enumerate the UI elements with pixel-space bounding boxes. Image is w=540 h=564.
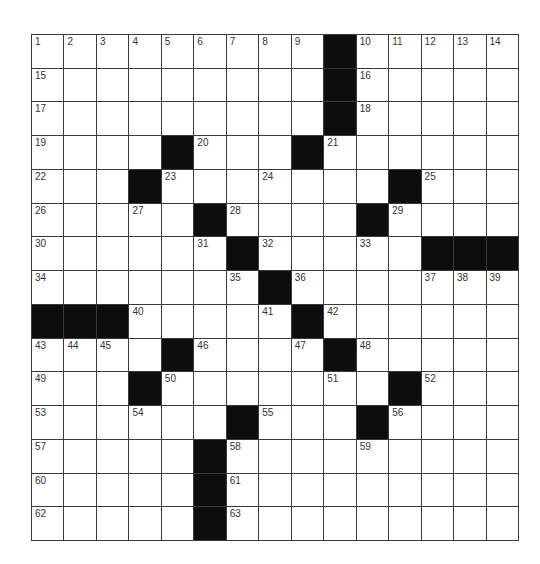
grid-cell[interactable] [64,474,96,508]
grid-cell[interactable] [97,474,129,508]
grid-cell[interactable] [389,474,421,508]
grid-cell[interactable]: 53 [32,406,64,440]
grid-cell[interactable] [389,305,421,339]
grid-cell[interactable]: 5 [162,35,194,69]
grid-cell[interactable] [454,136,486,170]
grid-cell[interactable]: 37 [422,271,454,305]
grid-cell[interactable]: 9 [292,35,324,69]
grid-cell[interactable] [292,474,324,508]
grid-cell[interactable] [422,69,454,103]
grid-cell[interactable] [292,102,324,136]
grid-cell[interactable] [422,474,454,508]
grid-cell[interactable] [97,69,129,103]
grid-cell[interactable] [389,237,421,271]
grid-cell[interactable] [422,406,454,440]
grid-cell[interactable] [487,102,519,136]
grid-cell[interactable]: 48 [357,339,389,373]
grid-cell[interactable]: 30 [32,237,64,271]
grid-cell[interactable] [454,474,486,508]
grid-cell[interactable]: 22 [32,170,64,204]
grid-cell[interactable] [97,204,129,238]
grid-cell[interactable] [162,237,194,271]
grid-cell[interactable] [324,406,356,440]
grid-cell[interactable] [227,170,259,204]
grid-cell[interactable]: 59 [357,440,389,474]
grid-cell[interactable] [97,372,129,406]
grid-cell[interactable]: 38 [454,271,486,305]
grid-cell[interactable]: 46 [194,339,226,373]
grid-cell[interactable] [97,136,129,170]
grid-cell[interactable]: 61 [227,474,259,508]
grid-cell[interactable] [64,237,96,271]
grid-cell[interactable]: 28 [227,204,259,238]
grid-cell[interactable] [162,69,194,103]
grid-cell[interactable] [259,372,291,406]
grid-cell[interactable] [454,170,486,204]
grid-cell[interactable] [422,136,454,170]
grid-cell[interactable] [162,204,194,238]
grid-cell[interactable] [487,339,519,373]
grid-cell[interactable] [324,474,356,508]
grid-cell[interactable] [324,271,356,305]
grid-cell[interactable] [259,474,291,508]
grid-cell[interactable] [487,170,519,204]
grid-cell[interactable]: 10 [357,35,389,69]
grid-cell[interactable] [324,237,356,271]
grid-cell[interactable] [422,204,454,238]
grid-cell[interactable]: 41 [259,305,291,339]
grid-cell[interactable]: 51 [324,372,356,406]
grid-cell[interactable] [357,507,389,541]
grid-cell[interactable] [454,440,486,474]
grid-cell[interactable] [357,305,389,339]
grid-cell[interactable] [97,102,129,136]
grid-cell[interactable] [97,271,129,305]
grid-cell[interactable] [324,507,356,541]
grid-cell[interactable] [454,507,486,541]
grid-cell[interactable]: 34 [32,271,64,305]
grid-cell[interactable]: 24 [259,170,291,204]
grid-cell[interactable]: 23 [162,170,194,204]
grid-cell[interactable] [357,136,389,170]
grid-cell[interactable] [227,372,259,406]
grid-cell[interactable]: 1 [32,35,64,69]
grid-cell[interactable] [97,440,129,474]
grid-cell[interactable]: 15 [32,69,64,103]
grid-cell[interactable] [129,271,161,305]
grid-cell[interactable] [487,69,519,103]
grid-cell[interactable]: 16 [357,69,389,103]
grid-cell[interactable]: 17 [32,102,64,136]
grid-cell[interactable] [292,237,324,271]
grid-cell[interactable] [194,406,226,440]
grid-cell[interactable] [97,406,129,440]
grid-cell[interactable] [324,440,356,474]
grid-cell[interactable]: 20 [194,136,226,170]
grid-cell[interactable] [97,170,129,204]
grid-cell[interactable]: 14 [487,35,519,69]
grid-cell[interactable] [129,474,161,508]
grid-cell[interactable] [324,204,356,238]
grid-cell[interactable]: 63 [227,507,259,541]
grid-cell[interactable] [162,305,194,339]
grid-cell[interactable] [292,440,324,474]
grid-cell[interactable] [259,102,291,136]
grid-cell[interactable]: 21 [324,136,356,170]
grid-cell[interactable] [64,507,96,541]
grid-cell[interactable] [129,440,161,474]
grid-cell[interactable]: 18 [357,102,389,136]
grid-cell[interactable] [97,237,129,271]
grid-cell[interactable] [194,69,226,103]
grid-cell[interactable] [64,204,96,238]
grid-cell[interactable]: 3 [97,35,129,69]
grid-cell[interactable] [194,170,226,204]
grid-cell[interactable]: 2 [64,35,96,69]
grid-cell[interactable] [259,69,291,103]
grid-cell[interactable] [389,271,421,305]
grid-cell[interactable] [64,136,96,170]
grid-cell[interactable]: 6 [194,35,226,69]
grid-cell[interactable] [487,204,519,238]
grid-cell[interactable] [422,339,454,373]
grid-cell[interactable] [487,406,519,440]
grid-cell[interactable] [227,305,259,339]
grid-cell[interactable]: 58 [227,440,259,474]
grid-cell[interactable]: 33 [357,237,389,271]
